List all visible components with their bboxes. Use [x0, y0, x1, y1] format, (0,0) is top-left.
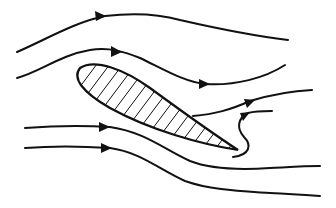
arrow-icon: [199, 79, 210, 89]
airfoil-outline: [77, 64, 238, 150]
streamline-upper: [17, 46, 285, 89]
arrow-icon: [101, 143, 112, 153]
arrow-icon: [99, 122, 110, 132]
streamline-lower: [25, 122, 320, 169]
arrow-icon: [244, 99, 255, 108]
arrow-icon: [111, 46, 122, 57]
arrow-icon: [95, 11, 106, 21]
streamline-reverse-eddy: [233, 111, 272, 157]
streamline-top: [17, 11, 288, 52]
airfoil-flow-diagram: [0, 0, 336, 208]
